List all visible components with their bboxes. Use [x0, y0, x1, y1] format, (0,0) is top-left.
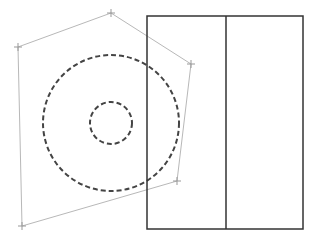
outer-dashed-circle	[43, 55, 179, 191]
rectangle-outline	[147, 16, 303, 229]
diagram-canvas	[0, 0, 317, 244]
vertex-markers	[14, 9, 195, 230]
inner-dashed-circle	[90, 102, 132, 144]
